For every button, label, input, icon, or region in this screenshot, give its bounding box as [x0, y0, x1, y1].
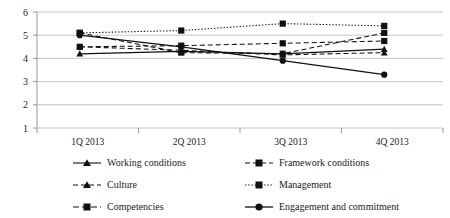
legend-symbol-dashed-square-2 [72, 201, 102, 213]
y-tick-label: 4 [23, 53, 28, 64]
legend-item-culture[interactable]: Culture [72, 174, 244, 196]
data-point [178, 44, 184, 50]
series-working-conditions [76, 46, 387, 57]
legend-item-competencies[interactable]: Competencies [72, 196, 244, 218]
plot-svg: 123456 1Q 20132Q 20133Q 20134Q 2013 [0, 0, 450, 150]
data-point [280, 58, 286, 64]
x-tick-label: 3Q 2013 [274, 137, 307, 147]
data-point [381, 72, 387, 78]
data-point [381, 30, 387, 36]
data-point [280, 21, 286, 27]
data-point [280, 40, 286, 46]
data-point [381, 23, 387, 29]
chart-legend: Working conditions Framework conditions … [0, 152, 450, 218]
gridlines [37, 12, 443, 128]
data-series-layer [76, 21, 387, 78]
legend-symbol-solid-triangle [72, 157, 102, 169]
plot-area: 123456 1Q 20132Q 20133Q 20134Q 2013 [0, 0, 450, 150]
line-chart: 123456 1Q 20132Q 20133Q 20134Q 2013 Work… [0, 0, 450, 218]
x-axis-tick-labels: 1Q 20132Q 20133Q 20134Q 2013 [71, 137, 409, 147]
y-tick-label: 3 [23, 76, 28, 87]
legend-item-management[interactable]: Management [244, 174, 450, 196]
y-tick-label: 6 [23, 7, 28, 18]
y-axis-tick-labels: 123456 [23, 7, 28, 134]
legend-label: Engagement and commitment [279, 202, 399, 212]
legend-label: Competencies [107, 202, 164, 212]
data-point [77, 32, 83, 38]
legend-item-framework-conditions[interactable]: Framework conditions [244, 152, 450, 174]
x-tick-label: 1Q 2013 [71, 137, 104, 147]
legend-symbol-solid-circle [244, 201, 274, 213]
y-tick-label: 1 [23, 123, 28, 134]
legend-label: Management [279, 180, 331, 190]
x-tick-label: 4Q 2013 [376, 137, 409, 147]
series-management [77, 21, 388, 36]
legend-label: Framework conditions [279, 158, 369, 168]
legend-label: Working conditions [107, 158, 186, 168]
legend-symbol-dashed-triangle [72, 179, 102, 191]
series-engagement-and-commitment [77, 32, 388, 78]
legend-item-working-conditions[interactable]: Working conditions [72, 152, 244, 174]
data-point [381, 38, 387, 44]
data-point [178, 27, 184, 33]
y-tick-label: 2 [23, 99, 28, 110]
series-line [80, 41, 385, 47]
legend-item-engagement-and-commitment[interactable]: Engagement and commitment [244, 196, 450, 218]
data-point [178, 50, 184, 56]
series-line [80, 24, 385, 33]
legend-label: Culture [107, 180, 137, 190]
data-point [280, 51, 286, 57]
legend-symbol-dotted-square [244, 179, 274, 191]
series-line [80, 35, 385, 74]
x-tick-label: 2Q 2013 [173, 137, 206, 147]
y-tick-label: 5 [23, 30, 28, 41]
legend-symbol-dashed-square [244, 157, 274, 169]
